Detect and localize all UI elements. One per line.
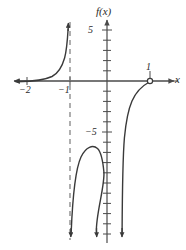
curve-middle-branch	[71, 147, 104, 237]
x-axis-ticks	[27, 71, 150, 85]
curve-left-branch	[15, 23, 68, 82]
curve-left-branch-path	[20, 29, 68, 82]
open-circle-point-at-x-1	[147, 78, 152, 83]
function-graph-figure: f(x) x −2 −1 1 5 −5	[0, 0, 186, 250]
y-tick-label-minus-five: −5	[85, 127, 97, 137]
graph-canvas	[0, 0, 186, 250]
y-tick-label-five: 5	[88, 25, 93, 35]
y-axis-ticks	[102, 30, 112, 234]
x-tick-label-minus2: −2	[19, 85, 31, 95]
x-axis-label: x	[175, 74, 180, 85]
x-tick-label-minus1: −1	[58, 85, 70, 95]
y-axis-label: f(x)	[96, 6, 111, 17]
curve-right-branch	[122, 78, 153, 237]
curve-right-branch-path	[122, 83, 148, 233]
curve-middle-branch-path	[71, 147, 104, 232]
x-tick-label-one: 1	[146, 62, 151, 72]
